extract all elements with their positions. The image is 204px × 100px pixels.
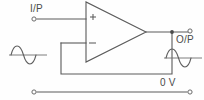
input-sine-wave-icon: [9, 46, 47, 64]
input-terminal[interactable]: [32, 17, 36, 21]
noninverting-plus-icon: [90, 14, 96, 20]
opamp-triangle: [86, 2, 146, 62]
output-terminal[interactable]: [188, 29, 192, 33]
zero-volts-label: 0 V: [160, 78, 176, 88]
output-sine-wave-icon: [164, 49, 202, 67]
ground-right-terminal[interactable]: [188, 90, 192, 94]
opamp-voltage-follower-diagram: I/P O/P 0 V: [0, 0, 204, 100]
feedback-wire: [61, 32, 172, 74]
output-junction-dot: [170, 30, 174, 34]
ground-left-terminal[interactable]: [32, 90, 36, 94]
output-label: O/P: [176, 35, 194, 45]
input-label: I/P: [30, 4, 43, 14]
